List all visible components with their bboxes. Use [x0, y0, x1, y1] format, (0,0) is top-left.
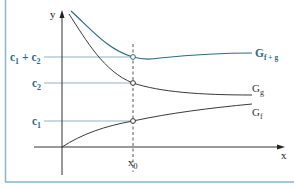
axes — [34, 10, 285, 175]
level-label-c1: c1 — [32, 115, 41, 130]
y-axis-arrow-icon — [60, 10, 65, 18]
y-axis-label: y — [50, 8, 56, 20]
x0-label: x0 — [128, 156, 138, 171]
figure-frame — [5, 0, 294, 182]
x-axis-label: x — [281, 149, 287, 161]
level-label-c1-plus-c2: c1 + c2 — [10, 51, 41, 66]
curve-label-g-f: Gf — [252, 106, 263, 121]
point-c1-plus-c2 — [131, 55, 136, 60]
level-label-c2: c2 — [32, 77, 41, 92]
curve-g-f — [62, 104, 252, 147]
curve-label-g-g: Gg — [252, 82, 264, 97]
point-c2 — [131, 81, 136, 86]
curve-label-g-f-plus-g: Gf + g — [255, 47, 278, 62]
point-c1 — [131, 119, 136, 124]
function-sum-diagram: y x x0 c1 + c2 c2 c1 Gf + g Gg Gf — [0, 0, 294, 188]
curve-g-f-plus-g — [71, 11, 252, 59]
level-guides — [44, 57, 133, 121]
